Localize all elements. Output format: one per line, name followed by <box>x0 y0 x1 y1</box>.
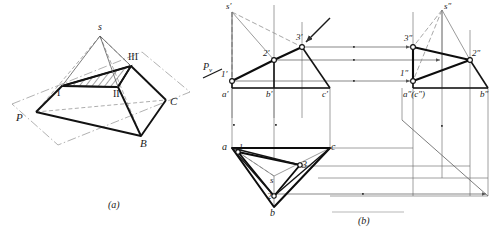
figure-linework <box>0 0 503 234</box>
projection-framework <box>232 5 488 196</box>
label-s-side: s″ <box>444 2 451 11</box>
label-1-top: 1 <box>239 144 243 152</box>
front-view-group <box>230 12 330 88</box>
label-c-top: c <box>331 142 335 152</box>
label-3-side: 3″ <box>404 34 412 43</box>
caption-a: (a) <box>108 200 120 210</box>
label-2-side: 2″ <box>472 49 480 58</box>
label-ac-side: a″(c″) <box>403 90 425 99</box>
pictorial-group <box>12 36 190 145</box>
label-b-top: b <box>270 208 275 218</box>
label-plane-P: P <box>16 112 23 123</box>
label-plane-trace-pv: Pv <box>203 62 212 74</box>
label-s-top: s <box>270 176 274 185</box>
orthographic-group <box>203 5 488 212</box>
label-vertex-c: C <box>170 96 177 107</box>
label-section-3: III <box>128 52 138 62</box>
label-a-top: a <box>222 142 227 152</box>
label-section-2: II <box>113 89 120 99</box>
label-3-top: 3 <box>302 160 307 170</box>
label-3-front: 3′ <box>296 33 302 42</box>
label-a-front: a′ <box>222 90 228 99</box>
label-vertex-b: B <box>140 138 147 149</box>
label-apex-s: s <box>98 22 102 32</box>
label-2-top: 2 <box>267 192 272 201</box>
label-b-front: b′ <box>266 90 272 99</box>
projector-ticks <box>233 46 443 195</box>
pv-subscript: v <box>209 66 212 74</box>
label-c-front: c′ <box>322 90 328 99</box>
label-1-front: 1′ <box>221 70 227 79</box>
top-view-group <box>232 148 330 207</box>
figure-canvas: s P B C I II III (a) Pv s′ 1′ 2′ 3′ a′ b… <box>0 0 503 234</box>
label-s-front: s′ <box>226 2 231 11</box>
label-1-side: 1″ <box>400 69 408 78</box>
caption-b: (b) <box>358 216 370 226</box>
label-b-side: b″ <box>480 90 488 99</box>
label-section-1: I <box>57 88 60 98</box>
section-hatching <box>62 66 131 87</box>
label-2-front: 2′ <box>263 49 269 58</box>
